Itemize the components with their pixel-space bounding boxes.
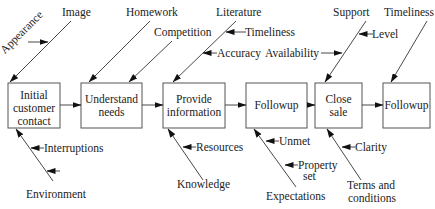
step-label: customer xyxy=(13,102,55,114)
cause-label-environment: Environment xyxy=(26,188,87,200)
step-label: Initial xyxy=(20,89,47,101)
cause-arrow-support xyxy=(325,21,366,82)
cause-label-accuracy: Accuracy xyxy=(217,47,261,60)
cause-label-availability: Availability xyxy=(265,47,319,60)
fishbone-diagram: Initial customer contact Understand need… xyxy=(0,0,435,209)
cause-label-timeliness-final: Timeliness xyxy=(384,6,435,18)
step-label: Close xyxy=(325,93,351,105)
cause-label-resources: Resources xyxy=(196,141,244,153)
cause-label-level: Level xyxy=(372,28,398,40)
cause-arrow-terms xyxy=(327,129,361,180)
cause-label-timeliness: Timeliness xyxy=(245,26,296,38)
cause-arrow-competition xyxy=(129,41,172,82)
cause-arrow-environment xyxy=(16,129,53,181)
cause-label-clarity: Clarity xyxy=(355,141,387,154)
step-label: Followup xyxy=(384,99,428,112)
cause-label-unmet: Unmet xyxy=(279,135,311,147)
cause-label-appearance: Appearance xyxy=(0,8,46,56)
step-label: information xyxy=(167,106,222,118)
cause-label-support: Support xyxy=(333,6,370,19)
cause-label-knowledge: Knowledge xyxy=(177,178,230,191)
cause-label-conditions: conditions xyxy=(348,192,396,204)
cause-label-interruptions: Interruptions xyxy=(44,142,104,155)
cause-label-terms: Terms and xyxy=(347,179,395,191)
cause-label-literature: Literature xyxy=(216,6,261,18)
cause-label-expectations: Expectations xyxy=(266,190,326,203)
step-label: needs xyxy=(98,106,125,118)
cause-label-property-set: set xyxy=(303,170,317,182)
cause-label-image: Image xyxy=(62,6,91,19)
step-label: Followup xyxy=(254,99,298,112)
step-label: Understand xyxy=(85,93,138,105)
cause-arrow-knowledge xyxy=(168,129,203,180)
step-label: Provide xyxy=(176,93,212,105)
cause-label-competition: Competition xyxy=(154,26,212,39)
step-label: contact xyxy=(17,115,51,127)
cause-arrow-homework xyxy=(89,21,150,82)
step-label: sale xyxy=(330,106,348,118)
cause-label-homework: Homework xyxy=(126,6,178,18)
